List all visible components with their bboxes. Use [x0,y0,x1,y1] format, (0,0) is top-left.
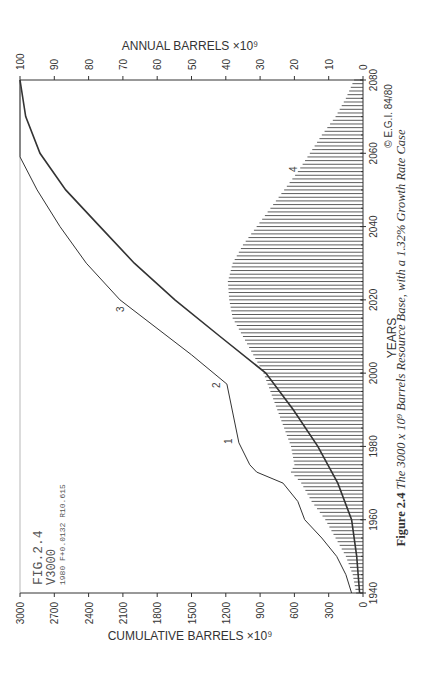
annual-tick-label: 40 [221,58,232,70]
year-tick-label: 1980 [368,435,379,458]
annual-tick-label: 100 [15,53,26,70]
year-tick-label: 2040 [368,215,379,238]
year-tick-label: 2060 [368,142,379,165]
year-tick-label: 1940 [368,581,379,604]
annual-tick-label: 10 [324,58,335,70]
annotation-line-3: 1980 F+0.0132 R10.615 [58,484,67,585]
cumulative-tick-label: 0 [358,602,369,608]
year-tick-label: 2000 [368,362,379,385]
figure-caption: Figure 2.4 The 3000 x 10⁹ Barrels Resour… [394,18,414,658]
cumulative-tick-label: 2700 [49,602,60,625]
chart: 1940196019802000202020402060208003006009… [0,0,433,675]
annual-tick-label: 70 [118,58,129,70]
annual-tick-label: 30 [255,58,266,70]
caption-prefix: Figure 2.4 [394,493,408,547]
annotation-line-1: FIG.2.4 [31,530,46,585]
annual-production-hatch [228,80,363,593]
cumulative-tick-label: 900 [255,602,266,619]
figure-annotation: FIG.2.4 V3000 1980 F+0.0132 R10.615 [31,484,67,585]
cumulative-tick-label: 300 [324,602,335,619]
cumulative-axis-title: CUMULATIVE BARRELS ×10⁹ [108,629,273,643]
year-tick-label: 1960 [368,508,379,531]
curve-label-1: 1 [223,438,234,444]
year-tick-label: 2020 [368,288,379,311]
cumulative-tick-label: 2100 [118,602,129,625]
copyright: © E.G.I. 84/80 [383,84,394,148]
cumulative-tick-label: 2400 [84,602,95,625]
annual-tick-label: 60 [152,58,163,70]
cumulative-tick-label: 600 [289,602,300,619]
cumulative-tick-label: 1500 [187,602,198,625]
annual-tick-label: 80 [84,58,95,70]
curve-label-4: 4 [288,166,299,172]
annual-tick-label: 90 [49,58,60,70]
annual-tick-label: 20 [289,58,300,70]
cumulative-tick-label: 1800 [152,602,163,625]
curve-label-2: 2 [211,382,222,388]
curve-labels: 1 2 3 4 [115,166,299,444]
year-tick-label: 2080 [368,68,379,91]
annotation-line-2: V3000 [45,549,59,585]
annual-tick-label: 0 [358,64,369,70]
cumulative-tick-label: 3000 [15,602,26,625]
curve-label-3: 3 [115,306,126,312]
annual-axis-title: ANNUAL BARRELS ×10⁹ [122,39,258,53]
cumulative-tick-label: 1200 [221,602,232,625]
annual-tick-label: 50 [187,58,198,70]
caption-text: The 3000 x 10⁹ Barrels Resource Base, wi… [394,130,408,490]
